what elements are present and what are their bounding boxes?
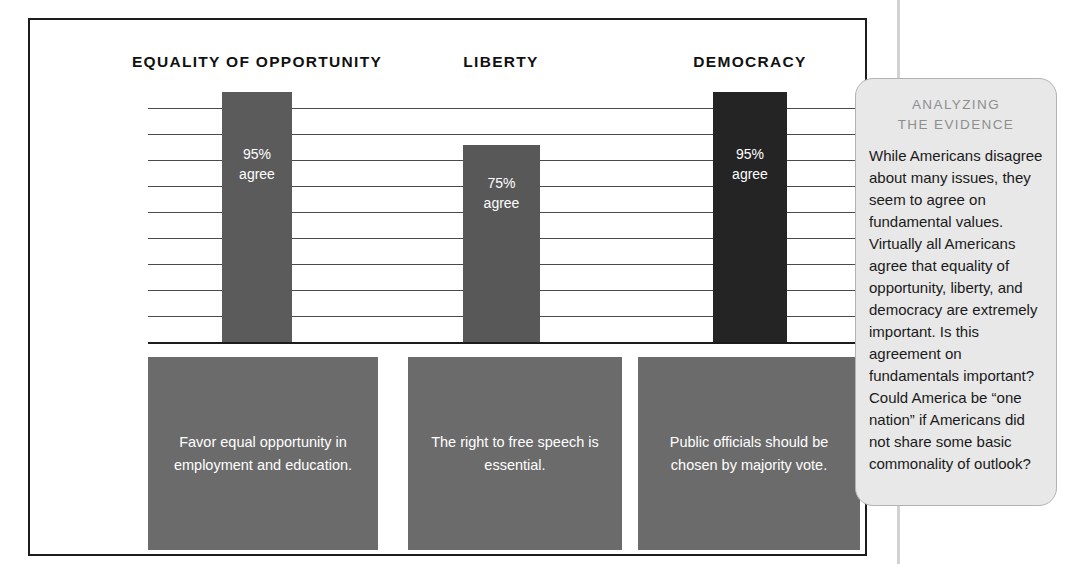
callout-title: ANALYZING THE EVIDENCE (869, 95, 1043, 136)
plot-area: 95% agree 75% agree 95% agree (148, 86, 860, 344)
bar-equality-of-opportunity: 95% agree (222, 92, 292, 342)
bar-value-label: 75% agree (463, 173, 540, 214)
bar-value-label: 95% agree (222, 144, 292, 185)
analyzing-the-evidence-callout: ANALYZING THE EVIDENCE While Americans d… (855, 78, 1057, 506)
bar-unit: agree (239, 166, 275, 182)
bar-percent: 75% (487, 175, 515, 191)
caption-box-democracy: Public officials should be chosen by maj… (638, 357, 860, 550)
bar-unit: agree (732, 166, 768, 182)
caption-text: The right to free speech is essential. (420, 431, 610, 477)
column-heading-equality-of-opportunity: EQUALITY OF OPPORTUNITY (132, 53, 382, 71)
figure-frame: EQUALITY OF OPPORTUNITY LIBERTY DEMOCRAC… (28, 18, 867, 556)
bar-liberty: 75% agree (463, 145, 540, 342)
caption-box-equality-of-opportunity: Favor equal opportunity in employment an… (148, 357, 378, 550)
bar-percent: 95% (736, 146, 764, 162)
callout-title-line-2: THE EVIDENCE (869, 115, 1043, 135)
bar-value-label: 95% agree (713, 144, 787, 185)
bar-unit: agree (484, 195, 520, 211)
caption-text: Public officials should be chosen by maj… (650, 431, 848, 477)
callout-body-text: While Americans disagree about many issu… (869, 145, 1043, 476)
bar-democracy: 95% agree (713, 92, 787, 342)
column-heading-liberty: LIBERTY (463, 53, 538, 71)
baseline-axis (148, 342, 860, 344)
column-heading-democracy: DEMOCRACY (693, 53, 806, 71)
bar-percent: 95% (243, 146, 271, 162)
caption-text: Favor equal opportunity in employment an… (160, 431, 366, 477)
caption-box-liberty: The right to free speech is essential. (408, 357, 622, 550)
callout-title-line-1: ANALYZING (869, 95, 1043, 115)
